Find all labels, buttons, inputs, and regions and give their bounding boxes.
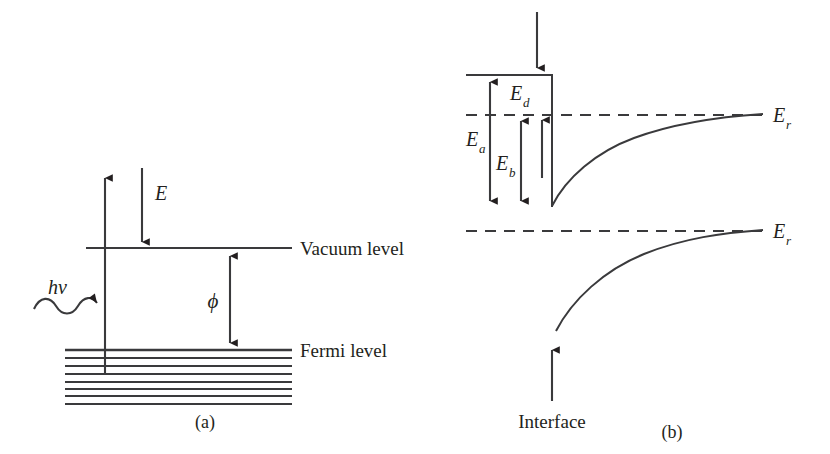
- reference-energy-upper-label-group: E r: [772, 104, 792, 132]
- reference-energy-lower-subscript: r: [786, 233, 792, 248]
- filled-band-lines: [65, 358, 292, 404]
- interface-label: Interface: [518, 411, 586, 432]
- photon-energy-label: hv: [48, 276, 67, 298]
- vacuum-level-label: Vacuum level: [300, 238, 404, 259]
- photon-wave-icon: [34, 298, 97, 313]
- work-function-label: ϕ: [208, 289, 219, 313]
- energy-d-label: E: [509, 82, 522, 104]
- lower-band-bending-curve: [556, 230, 763, 331]
- energy-d-subscript: d: [523, 95, 530, 110]
- energy-b-subscript: b: [509, 165, 516, 180]
- kinetic-energy-label: E: [154, 182, 167, 204]
- figure-root: Vacuum level Fermi level E hv ϕ (a): [0, 0, 830, 454]
- reference-energy-upper-label: E: [772, 104, 785, 126]
- reference-energy-lower-label: E: [772, 220, 785, 242]
- energy-diagram-svg: Vacuum level Fermi level E hv ϕ (a): [0, 0, 830, 454]
- upper-band-bending-curve: [552, 114, 763, 206]
- energy-a-label-group: E a: [465, 128, 486, 156]
- panel-b-caption: (b): [662, 422, 683, 443]
- energy-b-label: E: [495, 152, 508, 174]
- energy-a-subscript: a: [479, 141, 486, 156]
- energy-d-label-group: E d: [509, 82, 530, 110]
- panel-a-caption: (a): [195, 412, 215, 433]
- reference-energy-upper-subscript: r: [786, 117, 792, 132]
- fermi-level-label: Fermi level: [300, 340, 387, 361]
- reference-energy-lower-label-group: E r: [772, 220, 792, 248]
- energy-b-label-group: E b: [495, 152, 516, 180]
- panel-b: E d E a E b E r E r: [465, 12, 792, 443]
- panel-a: Vacuum level Fermi level E hv ϕ (a): [34, 168, 404, 433]
- energy-a-label: E: [465, 128, 478, 150]
